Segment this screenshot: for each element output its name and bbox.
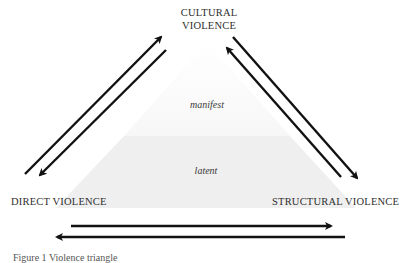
layer-label-latent: latent bbox=[186, 165, 226, 176]
node-cultural-line2: VIOLENCE bbox=[170, 19, 248, 32]
manifest-layer bbox=[124, 42, 290, 136]
node-structural-violence: STRUCTURAL VIOLENCE bbox=[272, 196, 399, 207]
figure-caption: Figure 1 Violence triangle bbox=[13, 252, 117, 263]
node-cultural-line1: CULTURAL bbox=[170, 6, 248, 19]
layer-label-manifest: manifest bbox=[182, 99, 232, 110]
node-direct-violence: DIRECT VIOLENCE bbox=[11, 196, 107, 207]
node-cultural-violence: CULTURAL VIOLENCE bbox=[170, 6, 248, 32]
